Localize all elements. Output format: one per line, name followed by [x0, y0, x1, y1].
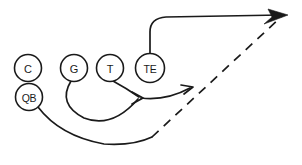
football-play-diagram: C G T TE QB [0, 0, 302, 165]
deep-target-arrowhead [264, 9, 288, 24]
center-player-label: C [24, 63, 32, 75]
quarterback-route-path [38, 107, 152, 144]
players-layer: C G T TE QB [15, 54, 165, 111]
center-player-marker: C [15, 55, 42, 82]
tackle-player-label: T [107, 63, 114, 75]
block-point-continuation-route-path [141, 88, 190, 99]
guard-player-label: G [70, 63, 79, 75]
tight-end-player-marker: TE [136, 54, 165, 83]
tackle-player-marker: T [97, 55, 124, 82]
quarterback-player-label: QB [22, 92, 37, 104]
tight-end-player-label: TE [144, 63, 157, 75]
guard-pull-route-path [66, 81, 138, 121]
quarterback-player-marker: QB [16, 84, 43, 111]
guard-player-marker: G [61, 55, 88, 82]
block-point-arrowhead [132, 92, 143, 104]
ball-flight-dashed-path [152, 17, 281, 137]
play-diagram-canvas: C G T TE QB [0, 0, 302, 165]
